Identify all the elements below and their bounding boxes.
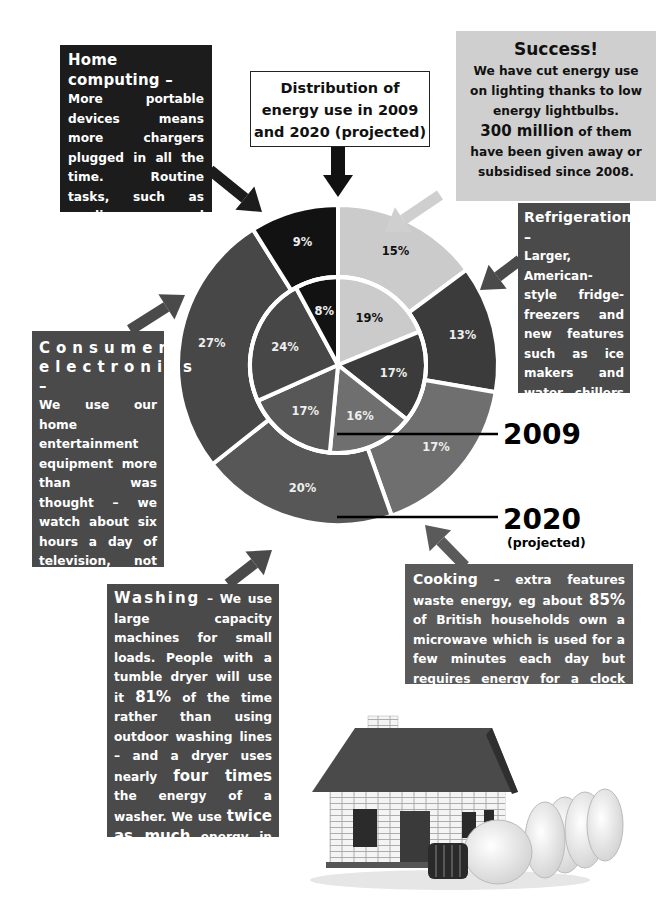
arrow-home-computing [210, 170, 245, 198]
callout-highlight: 300 million [480, 122, 574, 140]
slice-percent-label: 8% [314, 304, 334, 318]
callout-body: More portable devices means more charger… [68, 90, 204, 305]
callout-heading: Washing [114, 589, 200, 607]
slice-percent-label: 17% [380, 366, 408, 380]
home-computing-callout: Home computing – More portable devices m… [60, 45, 212, 212]
chart-title-line: energy use in 2009 [251, 99, 429, 121]
slice-percent-label: 17% [422, 440, 450, 454]
legend-2020-label: 2020 [503, 503, 581, 536]
cooking-callout: Cooking – extra features waste energy, e… [405, 564, 633, 684]
slice-percent-label: 27% [198, 336, 226, 350]
legend-2009-label: 2009 [503, 418, 581, 451]
callout-body: have been given away or subsidised since… [464, 142, 648, 182]
callout-body: of them [578, 125, 631, 139]
legend-2020-sub: (projected) [507, 535, 586, 550]
callout-heading: Refrigeration – [524, 208, 624, 247]
slice-percent-label: 9% [293, 235, 313, 249]
callout-body: We use our home entertainment equipment … [39, 398, 157, 608]
callout-body: Larger, American-style fridge-freezers a… [524, 247, 624, 442]
washing-callout: Washing – We use large capacity machines… [107, 584, 279, 837]
slice-percent-label: 13% [449, 328, 477, 342]
lighting-success-callout: Success! We have cut energy use on light… [456, 31, 656, 201]
slice-percent-label: 24% [271, 340, 299, 354]
slice-percent-label: 20% [289, 481, 317, 495]
arrow-refrigeration [498, 260, 520, 277]
refrigeration-callout: Refrigeration – Larger, American-style f… [518, 203, 630, 393]
callout-heading: Home computing – [68, 51, 204, 90]
chart-title-line: and 2020 (projected) [251, 121, 429, 143]
arrow-title-to-chart-head [323, 175, 353, 197]
slice-percent-label: 19% [355, 311, 383, 325]
consumer-electronics-callout: Consumer electronics – We use our home e… [32, 331, 164, 567]
callout-highlight: four times [173, 767, 272, 785]
arrow-cooking [440, 541, 465, 566]
arrow-lighting [403, 195, 440, 220]
callout-heading: Success! [464, 37, 648, 61]
slice-percent-label: 15% [382, 244, 410, 258]
callout-heading: Cooking [413, 571, 478, 587]
chart-title-line: Distribution of [251, 77, 429, 99]
callout-body: We have cut energy use on lighting thank… [464, 61, 648, 121]
callout-highlight: 85% [589, 591, 625, 609]
arrow-washing [228, 563, 255, 584]
arrow-consumer-electronics [130, 307, 166, 330]
chart-title-box: Distribution of energy use in 2009 and 2… [250, 71, 430, 147]
slice-percent-label: 17% [292, 404, 320, 418]
slice-percent-label: 16% [346, 409, 374, 423]
callout-highlight: 81% [135, 688, 171, 706]
callout-heading: Consumer electronics – [39, 339, 157, 396]
